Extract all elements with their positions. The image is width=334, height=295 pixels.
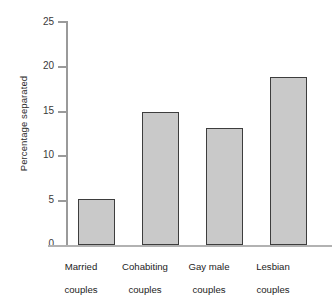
x-category-line-1: Lesbian: [256, 261, 290, 272]
y-tick-label-15: 15: [28, 106, 54, 116]
x-category-line-2: couples: [128, 284, 161, 295]
x-category-line-1: Married: [65, 261, 98, 272]
x-category-line-2: couples: [256, 284, 289, 295]
x-category-label-gay-male-couples: Gay male couples: [175, 249, 243, 295]
bar-lesbian-couples: [270, 77, 307, 245]
y-tick-label-5: 5: [28, 195, 54, 205]
x-category-line-2: couples: [192, 284, 225, 295]
x-category-line-2: couples: [64, 284, 97, 295]
plot-area: [66, 21, 332, 245]
y-tick-label-0: 0: [28, 239, 54, 249]
x-category-line-1: Gay male: [188, 261, 229, 272]
x-category-label-lesbian-couples: Lesbian couples: [239, 249, 307, 295]
bar-cohabiting-couples: [142, 112, 179, 245]
y-axis-title: Percentage separated: [18, 49, 29, 199]
x-axis-line: [48, 245, 332, 247]
y-tick-label-20: 20: [28, 61, 54, 71]
bar-married-couples: [78, 199, 115, 245]
y-tick-label-10: 10: [28, 150, 54, 160]
x-category-label-cohabiting-couples: Cohabiting couples: [111, 249, 179, 295]
bar-gay-male-couples: [206, 128, 243, 245]
x-category-line-1: Cohabiting: [122, 261, 168, 272]
y-tick-label-25: 25: [28, 17, 54, 27]
x-category-label-married-couples: Married couples: [47, 249, 115, 295]
